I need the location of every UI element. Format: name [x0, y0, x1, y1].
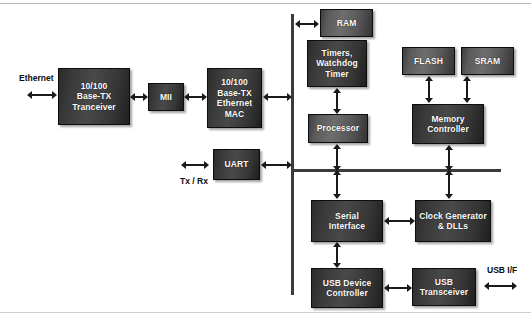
mii-mac-arrow: [184, 91, 207, 102]
serial-interface-line-2: Interface: [329, 221, 365, 231]
block-sram-text: SRAM: [475, 56, 500, 67]
processor-bus-arrow: [331, 144, 342, 171]
figure-top-border: [0, 3, 531, 4]
timers-processor-arrow: [331, 88, 342, 114]
ethernet-arrow: [27, 89, 57, 100]
usb-if-arrow: [484, 280, 517, 291]
block-sram[interactable]: SRAM: [461, 47, 514, 75]
serial-usb-device-arrow: [331, 242, 342, 268]
bus-serial-interface-arrow: [331, 170, 342, 199]
block-memory-controller-text: Memory Controller: [427, 114, 469, 135]
block-serial-interface[interactable]: Serial Interface: [311, 200, 383, 242]
block-transceiver[interactable]: 10/100 Base-TX Tranceiver: [58, 68, 130, 125]
uart-txrx-arrow: [181, 159, 209, 170]
flash-memory-controller-arrow: [423, 76, 434, 103]
block-serial-interface-text: Serial Interface: [329, 211, 365, 232]
clock-generator-line-2: & DLLs: [438, 221, 468, 231]
memory-controller-line-1: Memory: [431, 114, 464, 124]
timers-line-2: Watchdog: [316, 58, 358, 68]
serial-interface-line-1: Serial: [335, 211, 359, 221]
block-clock-generator[interactable]: Clock Generator & DLLs: [415, 200, 491, 242]
block-usb-transceiver-text: USB Transceiver: [420, 277, 468, 298]
usb-device-line-2: Controller: [326, 288, 368, 298]
usb-device-line-1: USB Device: [323, 278, 372, 288]
block-flash[interactable]: FLASH: [402, 47, 455, 75]
block-uart-text: UART: [224, 159, 248, 170]
figure-bottom-border: [0, 312, 531, 313]
block-diagram-canvas: Ethernet 10/100 Base-TX Tranceiver MII 1…: [0, 0, 531, 328]
transceiver-line-1: 10/100: [81, 81, 108, 91]
block-processor-text: Processor: [317, 123, 359, 134]
block-mii[interactable]: MII: [148, 83, 184, 111]
block-flash-text: FLASH: [414, 56, 443, 67]
block-ethernet-mac-text: 10/100 Base-TX Ethernet MAC: [217, 77, 252, 119]
transceiver-mii-arrow: [130, 91, 148, 102]
uart-bus-arrow: [261, 159, 292, 170]
vertical-system-bus: [291, 14, 294, 295]
block-memory-controller[interactable]: Memory Controller: [412, 104, 484, 144]
mac-line-1: 10/100: [221, 77, 248, 87]
block-ram-text: RAM: [337, 18, 357, 29]
bus-clock-generator-arrow: [443, 170, 454, 199]
mac-line-4: MAC: [225, 109, 245, 119]
clock-generator-line-1: Clock Generator: [419, 211, 487, 221]
usb-transceiver-line-1: USB: [435, 277, 453, 287]
timers-line-1: Timers,: [322, 48, 353, 58]
serial-clock-arrow: [384, 215, 415, 226]
timers-line-3: Timer: [325, 69, 349, 79]
transceiver-line-3: Tranceiver: [72, 102, 116, 112]
memory-controller-bus-arrow: [443, 145, 454, 171]
block-ethernet-mac[interactable]: 10/100 Base-TX Ethernet MAC: [207, 68, 262, 128]
block-usb-transceiver[interactable]: USB Transceiver: [412, 268, 476, 306]
block-transceiver-text: 10/100 Base-TX Tranceiver: [72, 81, 116, 113]
usb-device-transceiver-arrow: [384, 282, 412, 293]
usb-transceiver-line-2: Transceiver: [420, 287, 468, 297]
block-timers-watchdog[interactable]: Timers, Watchdog Timer: [307, 40, 367, 87]
sram-memory-controller-arrow: [461, 76, 472, 103]
txrx-label: Tx / Rx: [180, 176, 208, 186]
block-uart[interactable]: UART: [213, 149, 260, 180]
horizontal-system-bus: [291, 169, 501, 172]
ethernet-label: Ethernet: [19, 73, 53, 83]
mac-line-2: Base-TX: [217, 88, 252, 98]
transceiver-line-2: Base-TX: [77, 91, 112, 101]
block-processor[interactable]: Processor: [308, 114, 368, 143]
bus-ram-arrow: [295, 18, 319, 29]
usb-if-label: USB I/F: [487, 265, 517, 275]
block-ram[interactable]: RAM: [320, 9, 373, 37]
block-mii-text: MII: [160, 92, 172, 103]
block-usb-device-controller[interactable]: USB Device Controller: [311, 268, 383, 308]
memory-controller-line-2: Controller: [427, 124, 469, 134]
mac-bus-arrow: [263, 91, 292, 102]
block-usb-device-controller-text: USB Device Controller: [323, 278, 372, 299]
block-timers-watchdog-text: Timers, Watchdog Timer: [316, 48, 358, 80]
block-clock-generator-text: Clock Generator & DLLs: [419, 211, 487, 232]
mac-line-3: Ethernet: [217, 98, 252, 108]
